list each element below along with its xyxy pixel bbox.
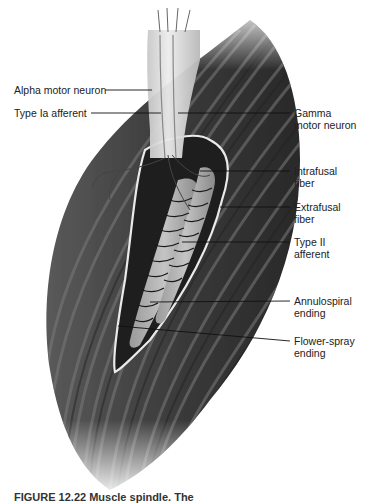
label-annulospiral-ending: Annulospiral ending xyxy=(294,295,352,319)
figure-caption: FIGURE 12.22 Muscle spindle. The xyxy=(14,491,194,503)
label-gamma-motor-neuron: Gamma motor neuron xyxy=(294,107,356,131)
label-alpha-motor-neuron: Alpha motor neuron xyxy=(14,84,106,96)
label-type-ia-afferent: Type Ia afferent xyxy=(14,107,87,119)
label-intrafusal-fiber: Intrafusal fiber xyxy=(294,165,337,189)
label-flower-spray-ending: Flower-spray ending xyxy=(294,335,355,359)
label-type-ii-afferent: Type II afferent xyxy=(294,236,329,260)
label-extrafusal-fiber: Extrafusal fiber xyxy=(294,201,341,225)
